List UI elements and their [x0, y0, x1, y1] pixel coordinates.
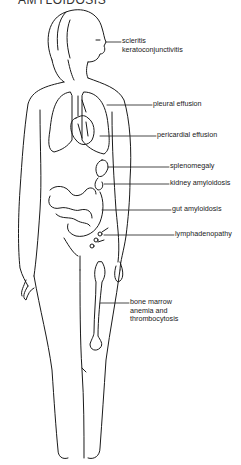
lymph-nodes-icon [90, 228, 108, 248]
label-lymphadenopathy: lymphadenopathy [175, 230, 232, 239]
kidney-icon [95, 178, 103, 190]
label-pleural-effusion: pleural effusion [153, 100, 202, 109]
label-line: keratoconjunctivitis [122, 46, 183, 55]
spleen-icon [96, 160, 108, 177]
label-line: lymphadenopathy [175, 230, 232, 239]
label-pericardial-effusion: pericardial effusion [157, 131, 217, 140]
label-line: kidney amyloidosis [170, 179, 230, 188]
intestines-icon [49, 186, 103, 236]
label-scleritis: scleritis keratoconjunctivitis [122, 37, 183, 54]
lungs-icon [49, 92, 109, 154]
label-bone-marrow: bone marrow anemia and thrombocytosis [130, 298, 178, 324]
femur-bone-icon [90, 262, 105, 350]
label-line: pleural effusion [153, 100, 202, 109]
leader-lines [100, 42, 174, 303]
label-kidney-amyloidosis: kidney amyloidosis [170, 179, 230, 188]
left-hand-icon [21, 280, 34, 300]
pelvis-icon [64, 238, 80, 270]
torso-outline-icon [19, 78, 131, 286]
label-line: thrombocytosis [130, 315, 178, 324]
head-icon [48, 10, 106, 82]
label-gut-amyloidosis: gut amyloidosis [172, 205, 222, 214]
legs-outline-icon [34, 270, 120, 459]
label-line: gut amyloidosis [172, 205, 222, 214]
label-splenomegaly: splenomegaly [170, 162, 214, 171]
label-line: splenomegaly [170, 162, 214, 171]
label-line: pericardial effusion [157, 131, 217, 140]
